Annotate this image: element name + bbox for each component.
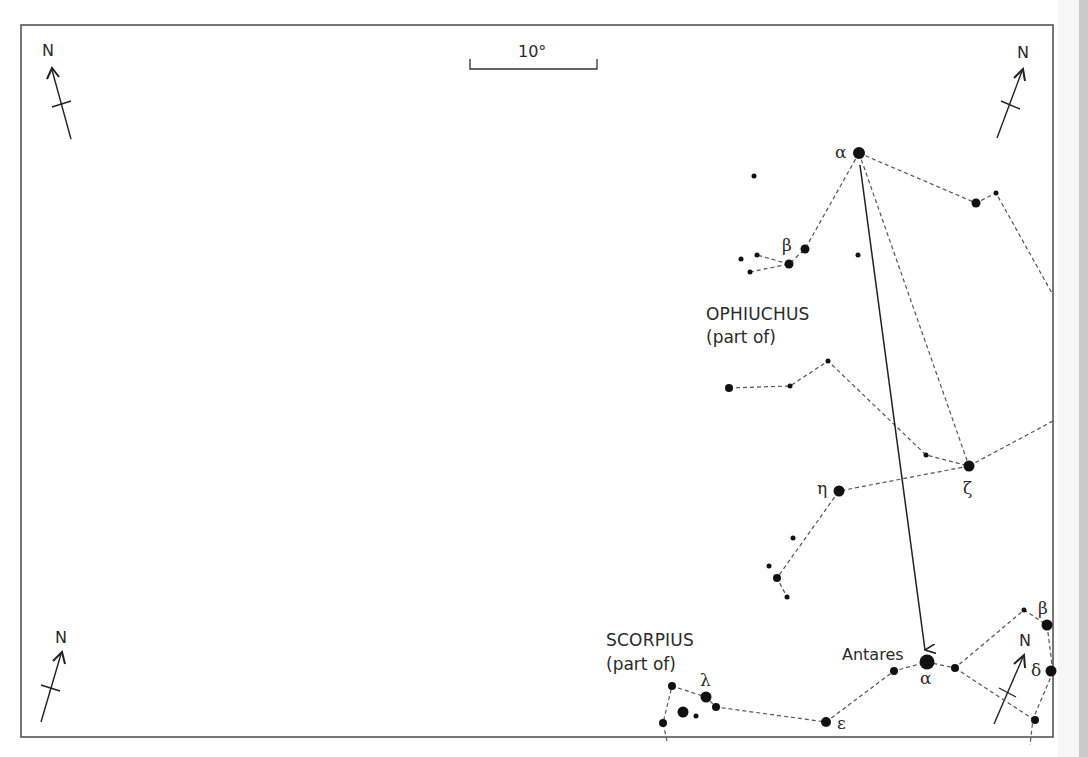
- ophiuchus-stars: [725, 147, 999, 600]
- compass-top-right-icon: [997, 69, 1025, 138]
- compass-bottom-left-icon: [41, 652, 65, 722]
- compass-top-left-icon: [47, 68, 71, 139]
- constellation-ophiuchus-name: OPHIUCHUS: [706, 306, 810, 323]
- constellation-ophiuchus-note: (part of): [706, 329, 776, 346]
- label-sco-lambda: λ: [700, 672, 711, 689]
- label-sco-beta: β: [1038, 600, 1048, 617]
- compass-top-left-label: N: [42, 43, 54, 59]
- label-sco-delta: δ: [1031, 662, 1041, 679]
- compass-bottom-right-icon: [994, 655, 1025, 724]
- compass-bottom-right-label: N: [1019, 633, 1031, 649]
- star-oph-alpha: [853, 147, 865, 159]
- constellation-scorpius-name: SCORPIUS: [606, 632, 694, 649]
- star-oph-eta: [834, 486, 845, 497]
- star-sco-epsilon: [821, 717, 831, 727]
- compass-top-right-label: N: [1017, 45, 1029, 61]
- label-oph-zeta: ζ: [963, 480, 972, 497]
- label-sco-epsilon: ε: [837, 715, 846, 732]
- compass-bottom-left-label: N: [55, 630, 67, 646]
- pointer-arrow: [860, 165, 925, 650]
- label-antares: Antares: [842, 647, 904, 663]
- label-oph-eta: η: [817, 480, 827, 497]
- scale-bar-label: 10°: [518, 44, 546, 60]
- star-sco-delta: [1046, 666, 1057, 677]
- scorpius-lines: [663, 610, 1053, 745]
- label-oph-alpha: α: [835, 144, 846, 161]
- label-sco-alpha: α: [920, 670, 931, 687]
- ophiuchus-lines: [729, 153, 1053, 597]
- star-chart: [0, 0, 1088, 757]
- constellation-scorpius-note: (part of): [606, 656, 676, 673]
- star-sco-beta: [1042, 620, 1053, 631]
- chart-frame: [21, 25, 1053, 737]
- star-oph-zeta: [964, 461, 975, 472]
- label-oph-beta: β: [782, 237, 792, 254]
- star-oph-beta: [801, 245, 810, 254]
- star-sco-lambda: [701, 692, 712, 703]
- scorpius-stars: [659, 608, 1057, 728]
